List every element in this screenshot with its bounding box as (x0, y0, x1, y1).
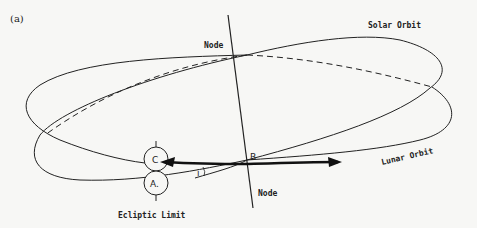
orbit-diagram: (a) Solar Orbit Node Node Lunar Orbit Ec… (0, 0, 477, 228)
point-b-label: B (250, 152, 256, 162)
point-c-label: C (152, 155, 158, 165)
arrowhead-right (328, 157, 342, 167)
double-arrow (165, 162, 338, 164)
lunar-orbit-back-right (247, 55, 432, 87)
lunar-orbit-back-left (45, 55, 247, 135)
node-line (228, 15, 253, 208)
angle-i-label: i (197, 168, 200, 178)
solar-orbit-left (26, 55, 247, 163)
panel-label: (a) (10, 13, 24, 24)
node-top-label: Node (204, 41, 223, 50)
solar-orbit-label: Solar Orbit (368, 20, 421, 30)
diagram-svg: (a) Solar Orbit Node Node Lunar Orbit Ec… (0, 0, 477, 228)
lunar-orbit-label: Lunar Orbit (380, 145, 434, 167)
point-a-label: A. (150, 179, 159, 189)
node-bottom-label: Node (258, 189, 277, 198)
ecliptic-limit-label: Ecliptic Limit (118, 210, 186, 220)
